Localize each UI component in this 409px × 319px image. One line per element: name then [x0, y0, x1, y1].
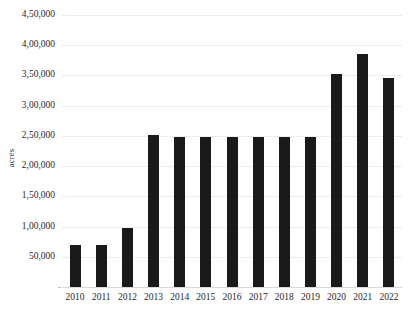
y-axis-title-label: acres	[6, 149, 16, 167]
y-axis-tick-label: 3,50,000	[22, 71, 55, 81]
y-axis-tick-label: 4,50,000	[22, 10, 55, 20]
x-axis-tick-label: 2018	[275, 290, 294, 304]
y-axis-tick-label: 3,00,000	[22, 101, 55, 111]
x-axis-tick-label: 2015	[196, 290, 215, 304]
bar-2011	[96, 245, 107, 287]
bar-series	[62, 15, 402, 287]
bar-2013	[148, 135, 159, 287]
x-axis-ticks: 2010201120122013201420152016201720182019…	[62, 290, 402, 308]
x-axis-tick-label: 2010	[66, 290, 85, 304]
chart-figure: acres 50,0001,00,0001,50,0002,00,0002,50…	[0, 0, 409, 319]
plot-area: 50,0001,00,0001,50,0002,00,0002,50,0003,…	[62, 15, 402, 287]
bar-2016	[227, 137, 238, 287]
x-axis-tick-label: 2017	[249, 290, 268, 304]
x-axis-tick-label: 2020	[327, 290, 346, 304]
y-axis-tick-label: 1,50,000	[22, 192, 55, 202]
x-axis-tick-label: 2021	[353, 290, 372, 304]
bar-2017	[253, 137, 264, 287]
x-axis-tick-label: 2013	[144, 290, 163, 304]
y-axis-tick-label: 4,00,000	[22, 40, 55, 50]
bar-2018	[279, 137, 290, 287]
x-axis-tick-label: 2022	[379, 290, 398, 304]
x-axis-tick-label: 2016	[223, 290, 242, 304]
y-axis-title: acres	[0, 128, 22, 188]
y-axis-tick-label: 1,00,000	[22, 222, 55, 232]
y-axis-tick-label: 2,00,000	[22, 161, 55, 171]
x-axis-tick-label: 2011	[92, 290, 111, 304]
bar-2014	[174, 137, 185, 287]
x-axis-line	[62, 287, 402, 288]
x-axis-tick-label: 2012	[118, 290, 137, 304]
bar-2019	[305, 137, 316, 287]
y-axis-tick-label: 2,50,000	[22, 131, 55, 141]
bar-2010	[70, 245, 81, 287]
x-axis-tick-label: 2014	[170, 290, 189, 304]
bar-2020	[331, 74, 342, 287]
axis-tick-mark	[58, 287, 61, 288]
y-axis-tick-label: 50,000	[29, 252, 55, 262]
bar-2012	[122, 228, 133, 287]
bar-2021	[357, 54, 368, 287]
bar-2022	[383, 78, 394, 287]
x-axis-tick-label: 2019	[301, 290, 320, 304]
bar-2015	[200, 137, 211, 287]
